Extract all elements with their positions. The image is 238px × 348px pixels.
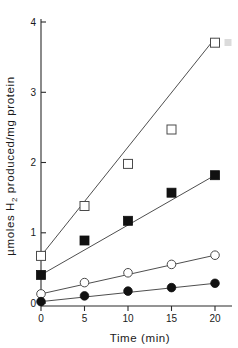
x-tick-label-15: 15 <box>166 313 178 324</box>
chart-plot-area: 0 1 2 3 4 0 5 10 15 20 Time (min) µmoles… <box>0 0 238 348</box>
y-tick-label-4: 4 <box>30 17 36 28</box>
x-tick-label-0: 0 <box>38 313 44 324</box>
y-tick-label-3: 3 <box>30 87 36 98</box>
series-markers-filled-square <box>37 171 220 280</box>
y-axis-title: µmoles H2 produced/mg protein <box>4 76 19 255</box>
series-markers-filled-circle <box>37 279 220 306</box>
x-tick-label-10: 10 <box>122 313 134 324</box>
y-tick-label-0: 0 <box>30 298 36 309</box>
y-tick-label-2: 2 <box>30 157 36 168</box>
y-tick-label-1: 1 <box>30 227 36 238</box>
x-axis-ticks <box>41 306 215 311</box>
y-axis-title-suffix: produced/mg protein <box>4 76 16 197</box>
ghost-square-artifact <box>225 40 231 46</box>
y-axis-title-prefix: µmoles H <box>4 202 16 256</box>
x-axis-title: Time (min) <box>110 332 171 344</box>
x-tick-label-20: 20 <box>209 313 221 324</box>
svg-text:µmoles H2 produced/mg protein: µmoles H2 produced/mg protein <box>4 76 19 255</box>
chart-figure: 0 1 2 3 4 0 5 10 15 20 Time (min) µmoles… <box>0 0 238 348</box>
x-tick-label-5: 5 <box>82 313 88 324</box>
